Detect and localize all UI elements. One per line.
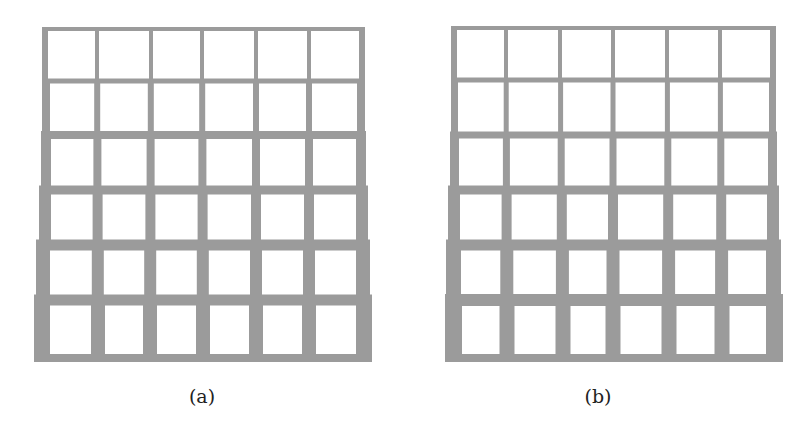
vertical-member (715, 245, 728, 302)
caption-b: (b) (568, 385, 628, 407)
vertical-member (662, 300, 677, 357)
vertical-member (767, 190, 779, 247)
vertical-member (558, 26, 562, 82)
vertical-member (451, 26, 457, 82)
vertical-member (665, 26, 669, 82)
vertical-member (716, 190, 726, 247)
horizontal-member (451, 78, 776, 83)
vertical-member (611, 80, 616, 137)
vertical-member (450, 135, 459, 192)
vertical-member (610, 135, 617, 192)
vertical-member (768, 135, 777, 192)
vertical-member (608, 190, 618, 247)
vertical-member (445, 300, 462, 357)
bottom-reinforcement (507, 355, 560, 362)
vertical-member (448, 190, 460, 247)
horizontal-member (445, 294, 783, 306)
vertical-member (766, 300, 783, 357)
vertical-member (715, 300, 730, 357)
horizontal-member (450, 132, 777, 139)
vertical-member (500, 245, 513, 302)
vertical-member (500, 300, 515, 357)
vertical-member (556, 245, 569, 302)
vertical-member (611, 26, 615, 82)
vertical-member (503, 135, 510, 192)
vertical-member (718, 26, 722, 82)
vertical-member (502, 190, 512, 247)
vertical-member (766, 245, 781, 302)
vertical-member (664, 135, 671, 192)
grid-structure-b (0, 0, 812, 431)
vertical-member (558, 135, 565, 192)
vertical-member (558, 80, 563, 137)
vertical-member (769, 80, 776, 137)
vertical-member (556, 300, 571, 357)
vertical-member (557, 190, 567, 247)
horizontal-member (446, 240, 781, 251)
vertical-member (446, 245, 461, 302)
vertical-member (504, 80, 509, 137)
horizontal-member (445, 354, 783, 362)
bottom-reinforcement (667, 355, 720, 362)
vertical-member (663, 190, 673, 247)
vertical-member (504, 26, 508, 82)
horizontal-member (448, 186, 779, 195)
vertical-member (718, 80, 723, 137)
vertical-member (665, 80, 670, 137)
vertical-member (606, 300, 621, 357)
vertical-member (607, 245, 620, 302)
vertical-member (770, 26, 776, 82)
vertical-member (717, 135, 724, 192)
vertical-member (451, 80, 458, 137)
horizontal-member (451, 26, 776, 30)
vertical-member (662, 245, 675, 302)
